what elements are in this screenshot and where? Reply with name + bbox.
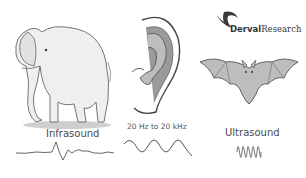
bat-illustration bbox=[196, 50, 302, 106]
infrasound-label: Infrasound bbox=[46, 128, 99, 139]
brand-name-bold: Derval bbox=[230, 24, 261, 34]
brand-logo: DervalResearch bbox=[230, 24, 301, 34]
brand-name-regular: Research bbox=[261, 24, 301, 34]
human-ear-illustration bbox=[122, 12, 184, 116]
ultrasound-label: Ultrasound bbox=[225, 127, 280, 138]
audible-range-label: 20 Hz to 20 kHz bbox=[127, 122, 187, 131]
audible-sine-waveform bbox=[122, 136, 196, 158]
infrasound-waveform bbox=[16, 140, 114, 162]
ultrasound-waveform bbox=[236, 141, 262, 163]
elephant-illustration bbox=[12, 22, 112, 130]
